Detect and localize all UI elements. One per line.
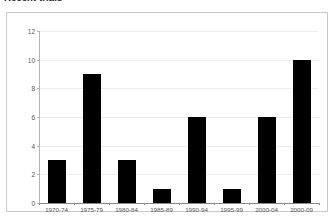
x-axis-tick-label: 2000-09 (284, 206, 319, 214)
x-axis-tick-mark (144, 203, 145, 205)
y-axis-line (39, 31, 40, 204)
chart-frame: 024681012 1970-741975-791980-841985-8919… (6, 12, 328, 212)
x-axis-tick-mark (39, 203, 40, 205)
y-axis-tick-label: 2 (13, 171, 35, 178)
y-axis-tick-mark (37, 31, 39, 32)
y-axis-tick-labels: 024681012 (11, 31, 35, 203)
y-axis-tick-mark (37, 174, 39, 175)
y-axis-tick-mark (37, 146, 39, 147)
bar-slot (39, 31, 74, 203)
bar-slot (249, 31, 284, 203)
x-axis-tick-label: 2000-04 (249, 206, 284, 214)
bar-slot (179, 31, 214, 203)
bar-slot (284, 31, 319, 203)
page-title: Recent trials (4, 0, 204, 4)
x-axis-tick-label: 1970-74 (39, 206, 74, 214)
x-axis-tick-label: 1995-99 (214, 206, 249, 214)
bar[interactable] (83, 74, 101, 203)
x-axis-tick-mark (249, 203, 250, 205)
x-axis-tick-mark (179, 203, 180, 205)
bar-slot (74, 31, 109, 203)
bar[interactable] (48, 160, 66, 203)
x-axis-tick-mark (319, 203, 320, 205)
x-axis-tick-label: 1975-79 (74, 206, 109, 214)
y-axis-tick-mark (37, 60, 39, 61)
bar-chart-figure: Recent trials 024681012 1970-741975-7919… (0, 0, 334, 222)
x-axis-tick-labels: 1970-741975-791980-841985-891990-941995-… (39, 206, 319, 218)
bar-slot (109, 31, 144, 203)
bar[interactable] (118, 160, 136, 203)
bar[interactable] (223, 189, 241, 203)
bar-slot (214, 31, 249, 203)
x-axis-tick-label: 1980-84 (109, 206, 144, 214)
bar[interactable] (153, 189, 171, 203)
plot-area (39, 31, 319, 203)
y-axis-tick-label: 0 (13, 200, 35, 207)
bar[interactable] (293, 60, 311, 203)
y-axis-tick-label: 12 (13, 28, 35, 35)
y-axis-tick-mark (37, 117, 39, 118)
x-axis-tick-mark (109, 203, 110, 205)
y-axis-tick-label: 4 (13, 142, 35, 149)
y-axis-tick-mark (37, 88, 39, 89)
y-axis-tick-label: 10 (13, 56, 35, 63)
x-axis-tick-mark (284, 203, 285, 205)
bar[interactable] (188, 117, 206, 203)
x-axis-tick-mark (74, 203, 75, 205)
x-axis-tick-label: 1990-94 (179, 206, 214, 214)
y-axis-tick-label: 8 (13, 85, 35, 92)
bar-slot (144, 31, 179, 203)
y-axis-tick-label: 6 (13, 114, 35, 121)
x-axis-tick-mark (214, 203, 215, 205)
bar[interactable] (258, 117, 276, 203)
x-axis-tick-label: 1985-89 (144, 206, 179, 214)
